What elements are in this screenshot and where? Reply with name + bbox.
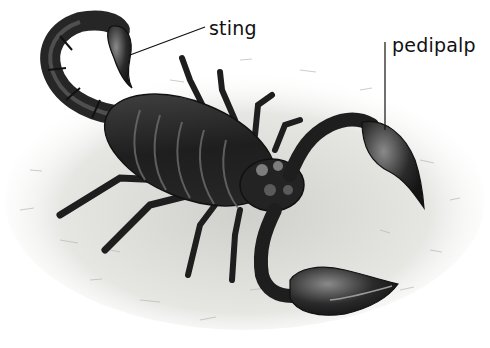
sting-telson bbox=[108, 26, 132, 88]
scorpion-diagram: sting pedipalp bbox=[0, 0, 490, 348]
sting-leader-line bbox=[130, 27, 205, 55]
label-sting: sting bbox=[209, 19, 257, 38]
label-pedipalp: pedipalp bbox=[392, 36, 476, 55]
